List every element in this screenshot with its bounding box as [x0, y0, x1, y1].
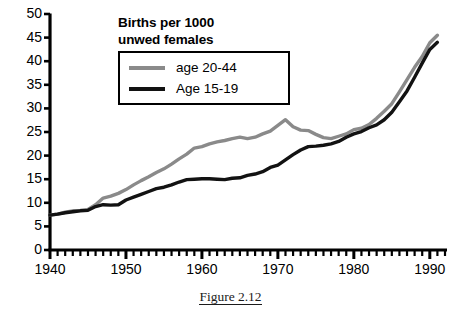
- legend-label-age-15-19: Age 15-19: [176, 81, 238, 96]
- y-axis-tick-label: 20: [12, 147, 42, 163]
- y-axis-tick-label: 30: [12, 99, 42, 115]
- x-axis-tick-label: 1970: [255, 261, 301, 277]
- legend-item-age-20-44[interactable]: age 20-44: [120, 57, 288, 78]
- legend-box: age 20-44 Age 15-19: [118, 51, 290, 105]
- chart-legend: Births per 1000 unwed females age 20-44 …: [118, 14, 318, 105]
- y-axis-tick-label: 50: [12, 5, 42, 21]
- legend-label-age-20-44: age 20-44: [176, 60, 237, 75]
- legend-swatch-gray-line-icon: [129, 66, 165, 70]
- y-axis-tick-label: 40: [12, 52, 42, 68]
- y-axis-tick-label: 0: [12, 241, 42, 257]
- legend-item-age-15-19[interactable]: Age 15-19: [120, 78, 288, 99]
- figure-caption-text: Figure 2.12: [199, 289, 261, 305]
- y-axis-tick-label: 5: [12, 217, 42, 233]
- y-axis-tick-label: 45: [12, 29, 42, 45]
- legend-title-line-2: unwed females: [118, 31, 318, 48]
- figure-caption: Figure 2.12: [0, 289, 461, 305]
- x-axis-tick-label: 1980: [331, 261, 377, 277]
- y-axis-tick-label: 10: [12, 194, 42, 210]
- y-axis-tick-label: 25: [12, 123, 42, 139]
- legend-swatch-black-line-icon: [129, 87, 165, 91]
- x-axis-tick-label: 1950: [103, 261, 149, 277]
- x-axis-tick-label: 1940: [27, 261, 73, 277]
- x-axis-tick-label: 1960: [179, 261, 225, 277]
- y-axis-tick-label: 35: [12, 76, 42, 92]
- y-axis-tick-label: 15: [12, 170, 42, 186]
- x-axis-tick-label: 1990: [407, 261, 453, 277]
- chart-figure: 05101520253035404550 1940195019601970198…: [0, 0, 461, 313]
- legend-title-line-1: Births per 1000: [118, 14, 318, 31]
